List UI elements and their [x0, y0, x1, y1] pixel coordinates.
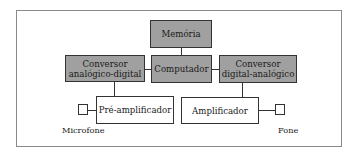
node-amp-label: Amplificador	[192, 106, 248, 116]
edge-adc-preamp	[114, 82, 115, 96]
edge-dac-amp	[242, 83, 243, 97]
node-computador-label: Computador	[154, 64, 208, 74]
node-dac-line2: digital-analógico	[222, 69, 295, 79]
node-adc: Conversor analógico-digital	[65, 55, 145, 82]
node-dac-line1: Conversor	[235, 59, 280, 69]
node-amp: Amplificador	[181, 97, 259, 124]
edge-mic-preamp	[88, 110, 96, 111]
node-adc-line1: Conversor	[82, 59, 127, 69]
edge-memoria-computador	[181, 48, 182, 55]
edge-computador-dac	[212, 69, 219, 70]
node-preamp-label: Pré-amplificador	[99, 105, 172, 115]
node-computador: Computador	[151, 55, 212, 83]
node-preamp: Pré-amplificador	[96, 96, 174, 124]
microfone-label: Microfone	[62, 125, 105, 135]
fone-label: Fone	[278, 125, 298, 135]
node-memoria: Memória	[150, 20, 212, 48]
node-adc-line2: analógico-digital	[69, 69, 142, 79]
microphone-icon	[78, 104, 88, 115]
headphone-icon	[275, 104, 285, 115]
node-dac: Conversor digital-analógico	[219, 55, 297, 83]
node-memoria-label: Memória	[161, 29, 200, 39]
edge-amp-fone	[259, 110, 275, 111]
